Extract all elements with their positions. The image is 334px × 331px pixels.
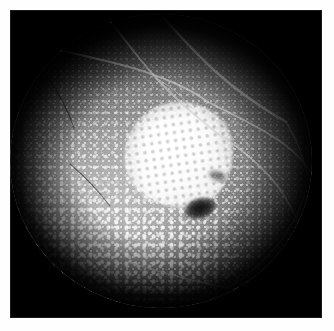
fundus-field-wrapper <box>22 10 322 310</box>
field-vignette <box>10 14 312 308</box>
fundus-circular-field <box>10 14 312 308</box>
figure-root <box>0 0 334 331</box>
angiogram-image-plate <box>10 10 322 318</box>
